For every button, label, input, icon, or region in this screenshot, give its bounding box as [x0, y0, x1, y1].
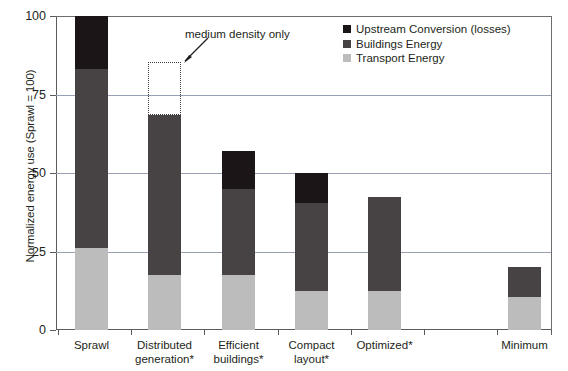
bar-segment-upstream-conversion [295, 173, 328, 203]
y-tick-25 [50, 252, 56, 253]
bar-segment-transport-energy [295, 291, 328, 330]
legend-item-transport-energy: Transport Energy [343, 51, 511, 66]
y-tick-50 [50, 173, 56, 174]
y-tick-label-0: 0 [4, 323, 46, 337]
bar-segment-transport-energy [508, 297, 541, 330]
bar-sprawl [75, 16, 108, 330]
x-axis-label-optimized: Optimized* [330, 338, 440, 352]
bar-segment-transport-energy [148, 275, 181, 330]
bar-segment-transport-energy [75, 248, 108, 330]
legend-swatch-transport-energy [343, 54, 351, 62]
bar-segment-buildings-energy [508, 267, 541, 297]
y-tick-100 [50, 16, 56, 17]
energy-use-stacked-bar-chart: Normalized energy use (Sprawl = 100) 100… [0, 0, 568, 371]
bar-efficient-buildings [222, 16, 255, 330]
x-tick-4 [351, 330, 352, 335]
bar-segment-upstream-conversion [222, 151, 255, 189]
legend-label-buildings-energy: Buildings Energy [356, 38, 442, 50]
y-tick-label-100: 100 [4, 9, 46, 23]
chart-legend: Upstream Conversion (losses) Buildings E… [343, 22, 511, 66]
legend-swatch-buildings-energy [343, 40, 351, 48]
bar-segment-buildings-energy [295, 203, 328, 291]
x-tick-2 [204, 330, 205, 335]
bar-compact-layout [295, 16, 328, 330]
y-tick-label-75: 75 [4, 88, 46, 102]
bar-segment-buildings-energy [148, 115, 181, 275]
bar-segment-buildings-energy [222, 189, 255, 275]
x-tick-1 [131, 330, 132, 335]
x-tick-5 [424, 330, 425, 335]
y-tick-0 [50, 330, 56, 331]
bar-segment-buildings-energy [368, 197, 401, 291]
x-tick-0 [58, 330, 59, 335]
x-tick-3 [278, 330, 279, 335]
legend-swatch-upstream-conversion [343, 25, 351, 33]
legend-item-buildings-energy: Buildings Energy [343, 37, 511, 52]
bar-segment-transport-energy [368, 291, 401, 330]
legend-label-upstream-conversion: Upstream Conversion (losses) [356, 23, 511, 35]
bar-segment-transport-energy [222, 275, 255, 330]
x-axis-label-minimum: Minimum [470, 338, 568, 352]
y-tick-label-50: 50 [4, 166, 46, 180]
x-tick-7 [551, 330, 552, 335]
annotation-dashed-box [148, 62, 181, 115]
y-tick-75 [50, 95, 56, 96]
bar-minimum [508, 16, 541, 330]
bar-segment-upstream-conversion [75, 16, 108, 69]
bar-segment-buildings-energy [75, 69, 108, 248]
x-tick-6 [497, 330, 498, 335]
annotation-medium-density-label: medium density only [185, 28, 290, 40]
legend-item-upstream-conversion: Upstream Conversion (losses) [343, 22, 511, 37]
y-tick-label-25: 25 [4, 245, 46, 259]
legend-label-transport-energy: Transport Energy [356, 52, 444, 64]
plot-frame-right [551, 16, 552, 330]
